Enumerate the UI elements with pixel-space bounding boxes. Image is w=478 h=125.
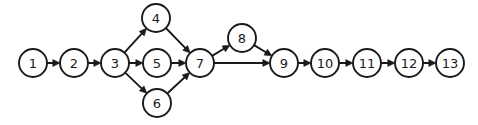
edge-5-to-7 bbox=[171, 60, 186, 67]
graph-node-5[interactable]: 5 bbox=[143, 49, 171, 77]
node-label-5: 5 bbox=[153, 56, 161, 71]
edge-7-to-9 bbox=[214, 60, 270, 67]
node-label-13: 13 bbox=[442, 56, 459, 71]
arrowhead-9-to-10 bbox=[304, 60, 311, 67]
edge-11-to-12 bbox=[381, 60, 395, 67]
arrowhead-3-to-5 bbox=[136, 60, 143, 67]
edge-7-to-8 bbox=[212, 45, 230, 56]
arrowhead-1-to-2 bbox=[53, 60, 60, 67]
graph-node-10[interactable]: 10 bbox=[311, 49, 339, 77]
node-label-3: 3 bbox=[111, 56, 119, 71]
graph-node-8[interactable]: 8 bbox=[228, 24, 256, 52]
graph-node-6[interactable]: 6 bbox=[143, 89, 171, 117]
edge-3-to-4 bbox=[124, 28, 146, 52]
arrowhead-11-to-12 bbox=[388, 60, 395, 67]
node-label-11: 11 bbox=[359, 56, 376, 71]
edge-3-to-6 bbox=[125, 73, 147, 94]
node-label-10: 10 bbox=[317, 56, 334, 71]
node-label-6: 6 bbox=[153, 96, 161, 111]
arrowhead-2-to-3 bbox=[94, 60, 101, 67]
node-label-4: 4 bbox=[152, 11, 160, 26]
graph-node-9[interactable]: 9 bbox=[270, 49, 298, 77]
arrowhead-7-to-8 bbox=[222, 45, 230, 52]
graph-node-11[interactable]: 11 bbox=[353, 49, 381, 77]
edge-4-to-7 bbox=[166, 28, 190, 53]
edge-1-to-2 bbox=[47, 60, 60, 67]
node-label-12: 12 bbox=[401, 56, 418, 71]
arrowhead-10-to-11 bbox=[346, 60, 353, 67]
arrowhead-7-to-9 bbox=[263, 60, 270, 67]
graph-node-7[interactable]: 7 bbox=[186, 49, 214, 77]
node-label-7: 7 bbox=[196, 56, 204, 71]
graph-node-13[interactable]: 13 bbox=[436, 49, 464, 77]
edge-6-to-7 bbox=[167, 73, 189, 94]
arrowhead-5-to-7 bbox=[179, 60, 186, 67]
graph-node-3[interactable]: 3 bbox=[101, 49, 129, 77]
graph-node-1[interactable]: 1 bbox=[19, 49, 47, 77]
arrowhead-12-to-13 bbox=[429, 60, 436, 67]
edge-10-to-11 bbox=[339, 60, 353, 67]
graph-node-12[interactable]: 12 bbox=[395, 49, 423, 77]
nodes-layer: 12345678910111213 bbox=[19, 4, 464, 117]
node-label-9: 9 bbox=[280, 56, 288, 71]
graph-diagram: 12345678910111213 bbox=[0, 0, 478, 125]
node-label-1: 1 bbox=[29, 56, 37, 71]
graph-node-4[interactable]: 4 bbox=[142, 4, 170, 32]
edge-2-to-3 bbox=[88, 60, 101, 67]
graph-node-2[interactable]: 2 bbox=[60, 49, 88, 77]
edge-3-to-5 bbox=[129, 60, 143, 67]
arrowhead-8-to-9 bbox=[264, 49, 272, 56]
edge-9-to-10 bbox=[298, 60, 311, 67]
edge-8-to-9 bbox=[254, 45, 272, 56]
node-label-8: 8 bbox=[238, 31, 246, 46]
edge-12-to-13 bbox=[423, 60, 436, 67]
node-label-2: 2 bbox=[70, 56, 78, 71]
